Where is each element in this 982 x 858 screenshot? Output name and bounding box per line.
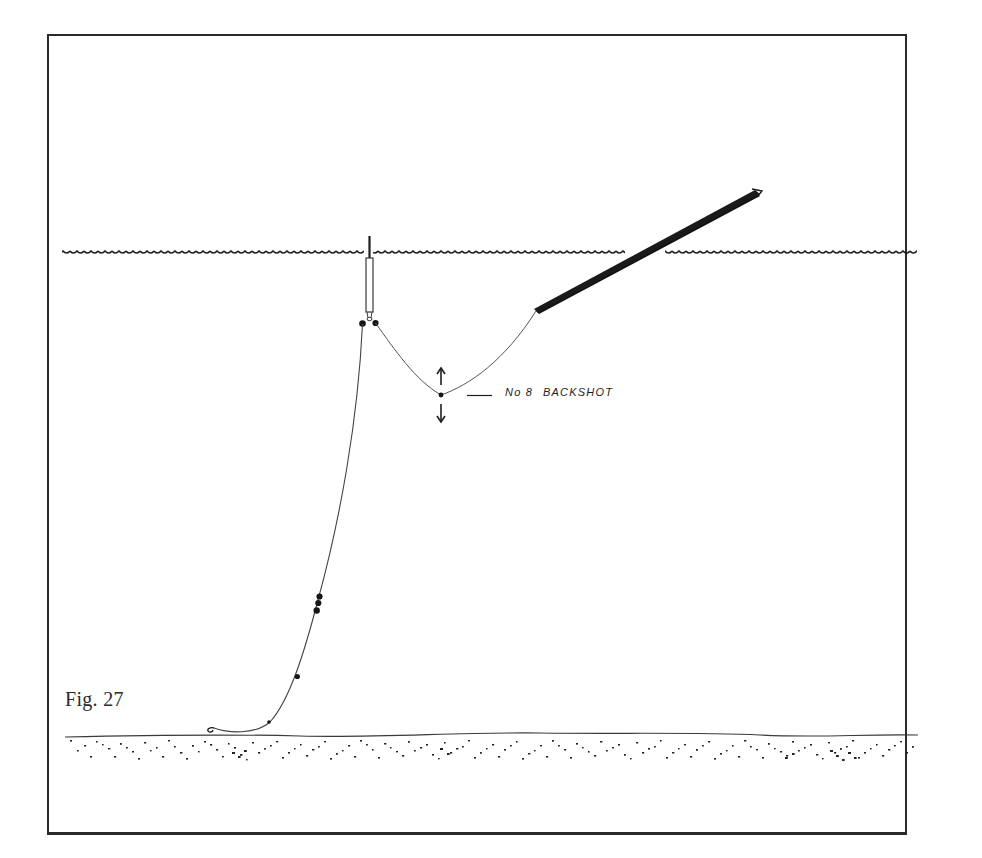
tell-tale-shot-icon [267, 720, 271, 724]
stipple-texture [70, 740, 914, 761]
shot-type-label: BACKSHOT [543, 386, 613, 398]
hook-icon [208, 728, 214, 732]
arrow-up-icon [437, 368, 445, 385]
water-wave-right [665, 246, 917, 254]
main-line [214, 324, 363, 732]
shot-icon [316, 593, 322, 599]
lake-bed [65, 733, 918, 761]
figure-caption: Fig. 27 [65, 688, 124, 711]
dropper-shot-icon [295, 674, 300, 679]
water-wave-middle [373, 246, 625, 254]
figure-page: Fig. 27 No 8BACKSHOT [0, 0, 982, 858]
arrow-down-icon [437, 404, 445, 422]
shot-size-label: No 8 [505, 386, 533, 398]
shot-icon [315, 600, 321, 606]
water-surface [62, 246, 917, 254]
backshot-label: No 8BACKSHOT [505, 386, 613, 398]
line-to-rod [376, 311, 537, 395]
fishing-rig-diagram [0, 0, 982, 858]
water-wave-left [62, 246, 364, 254]
backshot-icon [439, 393, 444, 398]
shot-icon [314, 607, 320, 613]
bulk-shot-cluster [314, 593, 323, 613]
